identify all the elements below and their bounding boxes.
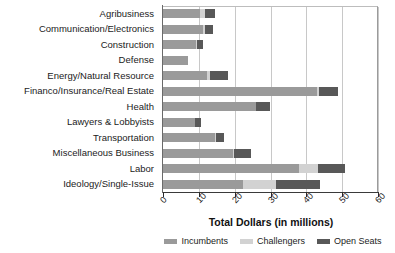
category-label: Transportation [93, 132, 154, 143]
x-tick-label: 40 [301, 191, 315, 205]
legend-label: Incumbents [181, 236, 228, 246]
bar-segment-open-seats [205, 25, 213, 34]
legend-item: Open Seats [317, 236, 382, 246]
bar-segment-incumbents [163, 87, 317, 96]
bar-segment-open-seats [276, 180, 320, 189]
category-axis-labels: AgribusinessCommunication/ElectronicsCon… [0, 6, 158, 192]
bar-row [163, 40, 378, 49]
category-label: Labor [130, 163, 154, 174]
legend-swatch-icon [317, 239, 330, 244]
bar-segment-incumbents [163, 71, 207, 80]
bar-row [163, 118, 378, 127]
bar-segment-incumbents [163, 56, 188, 65]
legend-item: Incumbents [164, 236, 228, 246]
bar-segment-challengers [299, 164, 318, 173]
x-tick-label: 50 [337, 191, 351, 205]
bar-segment-incumbents [163, 9, 200, 18]
y-axis-line [162, 5, 163, 193]
bar-segment-incumbents [163, 102, 256, 111]
bar-segment-open-seats [319, 87, 338, 96]
category-label: Ideology/Single-Issue [63, 178, 154, 189]
x-tick-label: 10 [194, 191, 208, 205]
bar-row [163, 56, 378, 65]
category-label: Health [127, 101, 154, 112]
bar-segment-incumbents [163, 133, 215, 142]
gridline [378, 7, 379, 192]
category-label: Agribusiness [100, 8, 154, 19]
bar-row [163, 149, 378, 158]
category-label: Construction [101, 39, 154, 50]
x-tick-label: 20 [230, 191, 244, 205]
bar-segment-open-seats [210, 71, 229, 80]
bar-row [163, 25, 378, 34]
bar-row [163, 164, 378, 173]
category-label: Communication/Electronics [39, 23, 154, 34]
x-tick-label: 0 [158, 194, 169, 205]
bar-row [163, 87, 378, 96]
x-tick-label: 60 [373, 191, 387, 205]
bar-row [163, 180, 378, 189]
legend-label: Open Seats [334, 236, 382, 246]
legend-label: Challengers [257, 236, 305, 246]
plot-area-wrapper [163, 6, 378, 192]
bar-rows [163, 6, 378, 192]
legend-item: Challengers [240, 236, 305, 246]
bar-segment-incumbents [163, 149, 233, 158]
x-tick-label: 30 [266, 191, 280, 205]
bar-segment-incumbents [163, 25, 203, 34]
bar-row [163, 9, 378, 18]
chart-legend: IncumbentsChallengersOpen Seats [163, 236, 383, 246]
bar-row [163, 133, 378, 142]
category-label: Financo/Insurance/Real Estate [24, 85, 154, 96]
bar-segment-open-seats [318, 164, 345, 173]
bar-segment-open-seats [197, 40, 203, 49]
bar-segment-open-seats [216, 133, 224, 142]
category-label: Energy/Natural Resource [47, 70, 154, 81]
bar-segment-open-seats [256, 102, 270, 111]
category-label: Defense [119, 54, 154, 65]
bar-row [163, 102, 378, 111]
legend-swatch-icon [240, 239, 253, 244]
category-label: Miscellaneous Business [53, 147, 154, 158]
bar-row [163, 71, 378, 80]
bar-chart: AgribusinessCommunication/ElectronicsCon… [0, 0, 395, 253]
bar-segment-open-seats [234, 149, 251, 158]
bar-segment-incumbents [163, 164, 299, 173]
bar-segment-open-seats [205, 9, 216, 18]
bar-segment-incumbents [163, 40, 196, 49]
bar-segment-incumbents [163, 118, 195, 127]
category-label: Lawyers & Lobbyists [67, 116, 154, 127]
bar-segment-incumbents [163, 180, 243, 189]
bar-segment-challengers [243, 180, 276, 189]
x-axis-title: Total Dollars (in millions) [163, 216, 379, 228]
legend-swatch-icon [164, 239, 177, 244]
bar-segment-open-seats [195, 118, 200, 127]
